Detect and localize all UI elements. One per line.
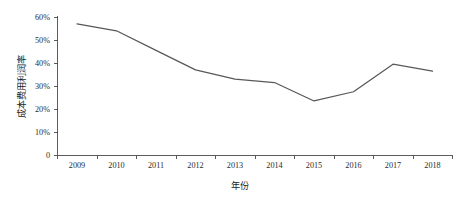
y-tick-label: 40% [35, 59, 50, 68]
y-tick-label: 50% [35, 36, 50, 45]
x-tick-label: 2013 [227, 161, 243, 170]
x-tick-label: 2011 [148, 161, 164, 170]
y-tick-label: 0 [46, 151, 50, 160]
y-axis-title: 成本费用利润率 [16, 55, 27, 118]
y-tick-label: 10% [35, 128, 50, 137]
x-tick-label: 2017 [385, 161, 401, 170]
y-tick-label: 20% [35, 105, 50, 114]
x-axis-title: 年份 [231, 180, 249, 191]
x-tick-label: 2014 [266, 161, 282, 170]
x-tick-label: 2010 [108, 161, 124, 170]
x-tick-label: 2009 [69, 161, 85, 170]
x-tick-label: 2012 [187, 161, 203, 170]
y-tick-label: 60% [35, 13, 50, 22]
chart-background [0, 0, 464, 202]
line-chart: 60% 50% 40% 30% 20% 10% 0 2009 2010 2 [0, 0, 464, 202]
y-tick-label: 30% [35, 82, 50, 91]
x-tick-label: 2015 [306, 161, 322, 170]
chart-container: 60% 50% 40% 30% 20% 10% 0 2009 2010 2 [0, 0, 464, 202]
x-tick-label: 2016 [345, 161, 361, 170]
x-tick-label: 2018 [424, 161, 440, 170]
